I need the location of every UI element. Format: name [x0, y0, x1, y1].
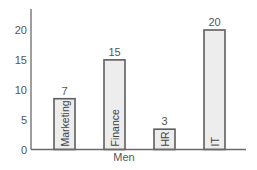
y-tick-label: 15: [15, 54, 27, 66]
y-tick-label: 0: [21, 144, 27, 156]
bar-group-it: 20IT: [204, 16, 225, 150]
bar-group-finance: 15Finance: [104, 46, 125, 150]
data-label: 3: [161, 115, 167, 127]
category-label: Marketing: [59, 100, 71, 146]
data-label: 15: [108, 46, 120, 58]
x-axis-title: Men: [113, 151, 134, 163]
bar-group-hr: 3HR: [154, 115, 175, 149]
bar-chart: 05101520 7Marketing15Finance3HR20IT Men: [0, 0, 257, 170]
data-label: 7: [61, 85, 67, 97]
y-tick-label: 20: [15, 24, 27, 36]
y-axis-ticks: 05101520: [15, 24, 27, 156]
bar-group-marketing: 7Marketing: [54, 85, 75, 150]
bar-it: [204, 30, 225, 150]
category-label: Finance: [109, 109, 121, 147]
bars: 7Marketing15Finance3HR20IT: [54, 16, 225, 150]
category-label: HR: [159, 131, 171, 147]
category-label: IT: [209, 137, 221, 147]
y-tick-label: 10: [15, 84, 27, 96]
y-tick-label: 5: [21, 114, 27, 126]
data-label: 20: [208, 16, 220, 28]
